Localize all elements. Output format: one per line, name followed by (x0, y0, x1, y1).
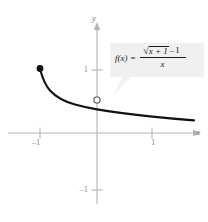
callout-pointer (113, 77, 131, 96)
radicand-expression: x + 1 (149, 46, 169, 56)
formula-equals-sign: = (131, 53, 136, 63)
y-tick-label-pos1: 1 (74, 65, 88, 74)
filled-endpoint-dot (37, 65, 44, 72)
fraction-denominator: x (161, 58, 165, 70)
x-tick-label-neg1: –1 (28, 138, 44, 147)
y-axis-arrowhead (94, 22, 100, 30)
square-root-icon: √ x + 1 (143, 46, 169, 56)
x-axis-label: x (196, 128, 200, 137)
fraction-numerator: √ x + 1 – 1 (143, 46, 182, 57)
formula-function-name: f(x) (115, 53, 128, 63)
y-tick-label-neg1: –1 (70, 185, 88, 194)
function-graph-figure: y x –1 1 1 –1 f(x) = √ x + 1 – 1 x (0, 0, 208, 222)
numerator-one: 1 (175, 46, 180, 55)
formula-callout-box: f(x) = √ x + 1 – 1 x (110, 43, 204, 77)
formula-fraction: √ x + 1 – 1 x (140, 46, 186, 70)
formula-expression: f(x) = √ x + 1 – 1 x (115, 46, 186, 70)
open-circle-hole (94, 97, 100, 103)
y-axis-label: y (92, 14, 96, 23)
plot-canvas (0, 0, 208, 222)
x-tick-label-pos1: 1 (145, 138, 161, 147)
